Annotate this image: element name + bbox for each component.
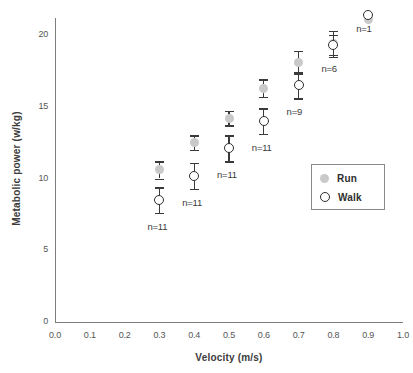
error-bar-cap <box>155 179 164 180</box>
chart-legend: Run Walk <box>311 164 385 210</box>
y-tick-label: 0 <box>22 316 48 326</box>
error-bar-cap <box>259 79 268 80</box>
data-point-walk[interactable] <box>154 195 164 205</box>
y-axis-title: Metabolic power (w/kg) <box>11 69 22 269</box>
data-point-run[interactable] <box>225 114 234 123</box>
y-tick-label: 20 <box>22 29 48 39</box>
error-bar-cap <box>329 57 338 58</box>
y-axis-line <box>55 18 56 323</box>
legend-item-walk[interactable]: Walk <box>320 189 362 205</box>
x-tick-label: 0.5 <box>214 330 244 340</box>
x-tick-label: 0.4 <box>179 330 209 340</box>
data-point-run[interactable] <box>259 84 268 93</box>
error-bar-cap <box>225 161 234 162</box>
error-bar-cap <box>155 187 164 188</box>
x-tick-label: 0.9 <box>353 330 383 340</box>
error-bar-cap <box>259 134 268 135</box>
data-point-walk[interactable] <box>259 116 269 126</box>
run-marker-icon <box>320 174 329 183</box>
error-bar-cap <box>329 31 338 32</box>
x-tick-label: 0.2 <box>110 330 140 340</box>
x-tick-label: 0.6 <box>249 330 279 340</box>
error-bar-cap <box>225 125 234 126</box>
x-tick-label: 0.3 <box>144 330 174 340</box>
error-bar-cap <box>155 213 164 214</box>
walk-marker-icon <box>320 192 330 202</box>
error-bar-cap <box>190 189 199 190</box>
error-bar-cap <box>190 135 199 136</box>
sample-size-label: n=11 <box>182 197 202 208</box>
data-point-walk[interactable] <box>328 40 338 50</box>
error-bar-cap <box>294 51 303 52</box>
data-point-run[interactable] <box>190 138 199 147</box>
error-bar-cap <box>294 98 303 99</box>
x-axis-title: Velocity (m/s) <box>55 352 403 363</box>
legend-label-walk: Walk <box>338 192 362 203</box>
sample-size-label: n=9 <box>287 106 303 117</box>
sample-size-label: n=1 <box>356 23 372 34</box>
error-bar-cap <box>225 111 234 112</box>
error-bar-cap <box>259 108 268 109</box>
data-point-run[interactable] <box>294 58 303 67</box>
legend-item-run[interactable]: Run <box>320 170 357 186</box>
x-tick-label: 0.1 <box>75 330 105 340</box>
legend-label-run: Run <box>337 173 357 184</box>
x-axis-line <box>55 322 403 323</box>
error-bar-cap <box>190 163 199 164</box>
error-bar-cap <box>155 161 164 162</box>
data-point-walk[interactable] <box>224 143 234 153</box>
y-tick-label: 10 <box>22 173 48 183</box>
y-tick-label: 5 <box>22 244 48 254</box>
error-bar-cap <box>329 55 338 56</box>
data-point-run[interactable] <box>155 165 164 174</box>
x-tick-label: 0.0 <box>40 330 70 340</box>
data-point-walk[interactable] <box>294 80 304 90</box>
data-point-walk[interactable] <box>189 171 199 181</box>
error-bar-cap <box>190 150 199 151</box>
x-tick-label: 1.0 <box>388 330 413 340</box>
metabolic-power-scatter-chart: 20151050 0.00.10.20.30.40.50.60.70.80.91… <box>0 0 413 373</box>
error-bar-cap <box>225 135 234 136</box>
sample-size-label: n=6 <box>321 63 337 74</box>
x-tick-label: 0.7 <box>284 330 314 340</box>
error-bar-cap <box>329 35 338 36</box>
sample-size-label: n=11 <box>252 142 272 153</box>
sample-size-label: n=11 <box>147 221 167 232</box>
y-tick-label: 15 <box>22 101 48 111</box>
sample-size-label: n=11 <box>217 169 237 180</box>
x-tick-label: 0.8 <box>318 330 348 340</box>
error-bar-cap <box>259 97 268 98</box>
error-bar-cap <box>294 72 303 73</box>
